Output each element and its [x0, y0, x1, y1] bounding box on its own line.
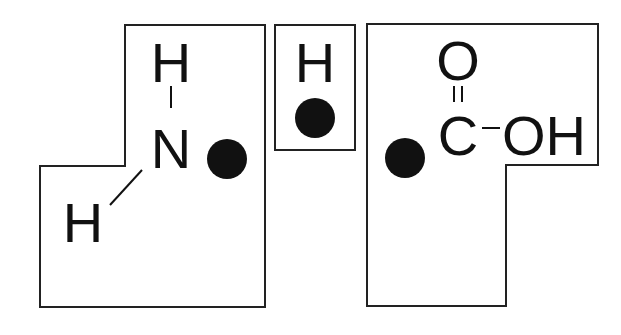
n-h-diagonal-bond: [110, 170, 142, 205]
amino-group-piece: H N H: [40, 25, 265, 307]
nitrogen-label: N: [151, 117, 191, 180]
hydrogen-attachment-dot-icon: [295, 98, 335, 138]
hydrogen-piece: H: [275, 25, 355, 150]
amino-attachment-dot-icon: [207, 139, 247, 179]
amino-top-hydrogen-label: H: [151, 31, 191, 94]
diagram-canvas: H N H H O C OH: [0, 0, 621, 335]
carboxyl-group-piece: O C OH: [367, 24, 598, 306]
carbon-label: C: [438, 104, 478, 167]
carboxyl-attachment-dot-icon: [385, 138, 425, 178]
oxygen-label: O: [436, 29, 480, 92]
hydroxyl-label: OH: [502, 104, 586, 167]
hydrogen-label: H: [295, 31, 335, 94]
amino-lower-hydrogen-label: H: [63, 191, 103, 254]
